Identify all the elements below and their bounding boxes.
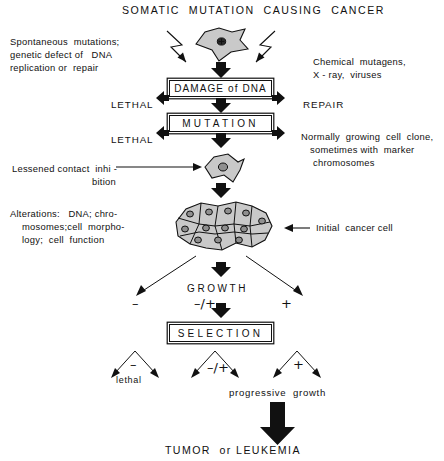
growth-sign-plus: + (281, 296, 292, 311)
annotation-inhibition-line2: bition (92, 176, 116, 188)
cancer-cell-cluster (176, 202, 272, 250)
box-damage-label: DAMAGE of DNA (174, 83, 267, 94)
label-lethal-mutation: LETHAL (111, 134, 153, 145)
annotation-alterations-line1: Alterations: DNA; chro- (10, 208, 117, 220)
block-arrow-damage-lethal (156, 91, 169, 105)
block-arrow-mutation-to-cell (211, 133, 231, 148)
annotation-alterations-line3: logy; cell function (22, 234, 104, 246)
transformed-cell-shape (205, 154, 244, 182)
growth-sign-minus: – (132, 296, 139, 311)
arrow-initial-cancer-cell (284, 224, 310, 232)
block-arrow-mutation-clone (272, 126, 285, 140)
branch-left-sign: – (130, 357, 137, 372)
annotation-clone-line3: chromosomes (313, 157, 375, 169)
annotation-alterations-line2: mosomes;cell morpho- (22, 221, 125, 233)
label-growth: GROWTH (187, 283, 248, 294)
branch-mid-sign: –/+ (207, 360, 229, 375)
annotation-clone-line1: Normally growing cell clone, (301, 131, 433, 143)
arrow-contact-inhibition (116, 163, 202, 171)
annotation-spontaneous-line3: replication or repair (10, 62, 98, 74)
annotation-mutagens-line2: X - ray, viruses (313, 69, 382, 81)
branch-left-label-lethal: lethal (116, 375, 142, 385)
diagram-title: SOMATIC MUTATION CAUSING CANCER (122, 4, 385, 16)
label-progressive-growth: progressive growth (229, 387, 326, 398)
block-arrow-to-tumor (260, 402, 295, 445)
box-selection: SELECTION (169, 324, 272, 342)
block-arrow-mutation-lethal (156, 126, 169, 140)
block-arrow-cell-to-damage (211, 62, 231, 78)
arrow-growth-plus (246, 256, 303, 296)
lightning-arrow-right (256, 31, 275, 62)
annotation-initial-cancer-cell: Initial cancer cell (316, 222, 393, 234)
box-mutation: MUTATION (169, 115, 272, 132)
box-selection-label: SELECTION (178, 328, 263, 339)
block-arrow-damage-to-mutation (211, 98, 231, 113)
block-arrow-damage-repair (272, 91, 285, 105)
annotation-clone-line2: sometimes with marker (310, 144, 414, 156)
diagram-canvas: SOMATIC MUTATION CAUSING CANCER Spontane… (0, 0, 444, 461)
annotation-spontaneous-line2: genetic defect of DNA (10, 49, 112, 61)
label-tumor-or-leukemia: TUMOR or LEUKEMIA (165, 444, 301, 456)
box-mutation-label: MUTATION (182, 118, 258, 129)
annotation-spontaneous-line1: Spontaneous mutations; (10, 36, 119, 48)
label-repair: REPAIR (303, 99, 344, 110)
block-arrow-cluster-to-growth (211, 262, 231, 277)
block-arrow-cell-to-cluster (211, 183, 231, 198)
annotation-mutagens-line1: Chemical mutagens, (313, 56, 406, 68)
label-lethal-damage: LETHAL (111, 99, 153, 110)
branch-right-sign: + (293, 357, 304, 372)
growth-sign-mixed: –/+ (194, 296, 216, 311)
annotation-inhibition-line1: Lessened contact inhi - (12, 163, 117, 175)
fibroblast-cell-shape (196, 28, 248, 61)
lightning-arrow-left (167, 31, 186, 62)
box-damage-of-dna: DAMAGE of DNA (169, 80, 272, 97)
